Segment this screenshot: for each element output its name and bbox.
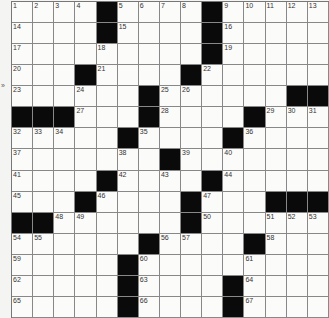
grid-cell[interactable] xyxy=(139,44,160,65)
grid-cell[interactable] xyxy=(308,234,329,255)
grid-cell[interactable]: 5 xyxy=(118,2,139,23)
grid-cell[interactable] xyxy=(54,255,75,276)
grid-cell[interactable]: 2 xyxy=(33,2,54,23)
grid-cell[interactable]: 47 xyxy=(202,192,223,213)
grid-cell[interactable] xyxy=(223,255,244,276)
grid-cell[interactable] xyxy=(75,149,96,170)
grid-cell[interactable] xyxy=(160,297,181,318)
grid-cell[interactable]: 38 xyxy=(118,149,139,170)
grid-cell[interactable] xyxy=(33,192,54,213)
grid-cell[interactable]: 19 xyxy=(223,44,244,65)
grid-cell[interactable]: 40 xyxy=(223,149,244,170)
grid-cell[interactable]: 1 xyxy=(12,2,33,23)
grid-cell[interactable]: 67 xyxy=(244,297,265,318)
grid-cell[interactable] xyxy=(97,255,118,276)
grid-cell[interactable] xyxy=(266,149,287,170)
grid-cell[interactable]: 50 xyxy=(202,213,223,234)
grid-cell[interactable] xyxy=(244,44,265,65)
grid-cell[interactable] xyxy=(54,23,75,44)
grid-cell[interactable] xyxy=(266,128,287,149)
grid-cell[interactable]: 14 xyxy=(12,23,33,44)
grid-cell[interactable]: 44 xyxy=(223,171,244,192)
grid-cell[interactable] xyxy=(308,149,329,170)
grid-cell[interactable]: 45 xyxy=(12,192,33,213)
grid-cell[interactable]: 60 xyxy=(139,255,160,276)
grid-cell[interactable]: 21 xyxy=(97,65,118,86)
grid-cell[interactable] xyxy=(118,192,139,213)
grid-cell[interactable] xyxy=(181,128,202,149)
grid-cell[interactable]: 16 xyxy=(223,23,244,44)
grid-cell[interactable]: 18 xyxy=(97,44,118,65)
grid-cell[interactable] xyxy=(118,44,139,65)
grid-cell[interactable] xyxy=(287,128,308,149)
grid-cell[interactable]: 43 xyxy=(160,171,181,192)
grid-cell[interactable] xyxy=(266,86,287,107)
grid-cell[interactable]: 28 xyxy=(160,107,181,128)
grid-cell[interactable]: 9 xyxy=(223,2,244,23)
grid-cell[interactable] xyxy=(75,297,96,318)
grid-cell[interactable] xyxy=(54,297,75,318)
grid-cell[interactable] xyxy=(308,44,329,65)
grid-cell[interactable] xyxy=(266,171,287,192)
grid-cell[interactable]: 62 xyxy=(12,276,33,297)
grid-cell[interactable]: 42 xyxy=(118,171,139,192)
grid-cell[interactable]: 33 xyxy=(33,128,54,149)
grid-cell[interactable]: 31 xyxy=(308,107,329,128)
grid-cell[interactable] xyxy=(75,23,96,44)
grid-cell[interactable]: 15 xyxy=(118,23,139,44)
grid-cell[interactable] xyxy=(160,23,181,44)
grid-cell[interactable] xyxy=(244,149,265,170)
grid-cell[interactable] xyxy=(223,86,244,107)
grid-cell[interactable] xyxy=(75,234,96,255)
grid-cell[interactable] xyxy=(202,149,223,170)
grid-cell[interactable] xyxy=(54,192,75,213)
grid-cell[interactable] xyxy=(33,297,54,318)
grid-cell[interactable]: 53 xyxy=(308,213,329,234)
grid-cell[interactable] xyxy=(223,192,244,213)
grid-cell[interactable] xyxy=(266,23,287,44)
grid-cell[interactable] xyxy=(181,107,202,128)
grid-cell[interactable] xyxy=(308,297,329,318)
grid-cell[interactable]: 66 xyxy=(139,297,160,318)
grid-cell[interactable] xyxy=(308,276,329,297)
grid-cell[interactable]: 41 xyxy=(12,171,33,192)
grid-cell[interactable] xyxy=(118,65,139,86)
grid-cell[interactable] xyxy=(160,128,181,149)
grid-cell[interactable]: 34 xyxy=(54,128,75,149)
grid-cell[interactable] xyxy=(202,255,223,276)
grid-cell[interactable] xyxy=(181,255,202,276)
grid-cell[interactable] xyxy=(97,86,118,107)
grid-cell[interactable]: 32 xyxy=(12,128,33,149)
grid-cell[interactable] xyxy=(244,192,265,213)
grid-cell[interactable] xyxy=(139,213,160,234)
grid-cell[interactable] xyxy=(97,128,118,149)
grid-cell[interactable] xyxy=(160,213,181,234)
grid-cell[interactable]: 61 xyxy=(244,255,265,276)
grid-cell[interactable]: 8 xyxy=(181,2,202,23)
grid-cell[interactable] xyxy=(244,86,265,107)
grid-cell[interactable] xyxy=(118,86,139,107)
grid-cell[interactable]: 12 xyxy=(287,2,308,23)
grid-cell[interactable] xyxy=(287,149,308,170)
grid-cell[interactable]: 46 xyxy=(97,192,118,213)
grid-cell[interactable] xyxy=(244,213,265,234)
grid-cell[interactable] xyxy=(33,255,54,276)
grid-cell[interactable] xyxy=(97,149,118,170)
grid-cell[interactable] xyxy=(139,171,160,192)
grid-cell[interactable]: 27 xyxy=(75,107,96,128)
grid-cell[interactable] xyxy=(244,23,265,44)
grid-cell[interactable] xyxy=(287,44,308,65)
grid-cell[interactable]: 20 xyxy=(12,65,33,86)
grid-cell[interactable] xyxy=(139,23,160,44)
grid-cell[interactable] xyxy=(287,234,308,255)
grid-cell[interactable] xyxy=(33,65,54,86)
grid-cell[interactable] xyxy=(33,149,54,170)
grid-cell[interactable]: 59 xyxy=(12,255,33,276)
grid-cell[interactable] xyxy=(54,65,75,86)
grid-cell[interactable]: 52 xyxy=(287,213,308,234)
grid-cell[interactable] xyxy=(266,65,287,86)
grid-cell[interactable] xyxy=(202,276,223,297)
grid-cell[interactable] xyxy=(33,171,54,192)
grid-cell[interactable]: 57 xyxy=(181,234,202,255)
grid-cell[interactable] xyxy=(97,234,118,255)
